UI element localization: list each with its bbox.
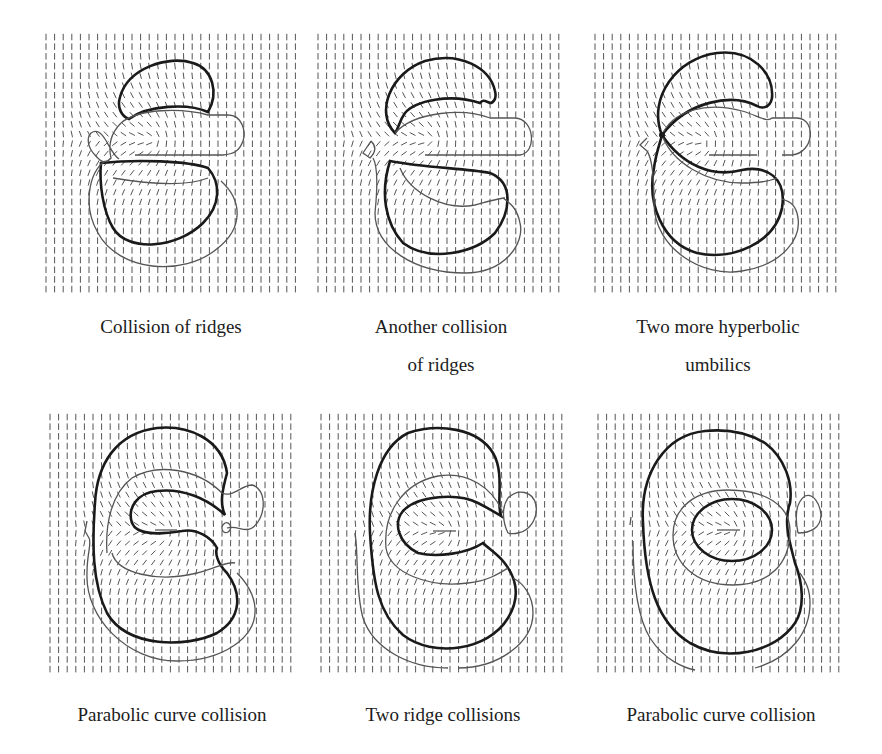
field-segment: [352, 141, 354, 147]
field-segment: [429, 92, 432, 98]
field-segment: [671, 92, 674, 98]
field-segment: [423, 482, 426, 488]
field-segment: [665, 531, 668, 537]
field-segment: [448, 540, 451, 546]
field-segment: [475, 491, 476, 497]
field-segment: [386, 73, 387, 79]
field-segment: [752, 588, 753, 594]
field-segment: [114, 208, 115, 214]
field-segment: [79, 141, 81, 147]
field-segment: [741, 102, 742, 108]
field-segment: [666, 501, 668, 507]
field-segment: [415, 589, 417, 595]
field-segment: [146, 143, 152, 145]
field-segment: [734, 569, 737, 575]
field-segment: [369, 92, 371, 98]
field-segment: [658, 491, 659, 497]
field-segment: [377, 160, 380, 166]
field-segment: [484, 569, 485, 575]
field-segment: [770, 588, 771, 594]
field-segment: [770, 598, 771, 604]
field-segment: [397, 492, 400, 498]
field-segment: [157, 141, 159, 147]
field-segment: [698, 63, 699, 69]
field-segment: [397, 569, 400, 575]
field-segment: [178, 521, 179, 527]
field-segment: [104, 122, 108, 127]
field-segment: [458, 521, 459, 527]
field-segment: [361, 82, 362, 88]
field-segment: [166, 208, 167, 214]
field-segment: [743, 550, 745, 556]
field-segment: [420, 83, 422, 89]
field-segment: [148, 92, 151, 98]
field-segment: [735, 453, 736, 459]
field-segment: [697, 73, 699, 79]
field-segment: [438, 532, 444, 534]
field-segment: [707, 541, 712, 545]
field-segment: [662, 151, 667, 156]
field-segment: [682, 531, 686, 536]
field-segment: [204, 588, 205, 594]
field-segment: [402, 102, 406, 107]
field-segment: [136, 453, 137, 459]
field-segment: [649, 530, 650, 536]
thin-curve-side-loop: [503, 492, 536, 534]
field-segment: [653, 122, 657, 127]
field-segment: [405, 550, 409, 555]
field-segment: [420, 199, 422, 205]
field-segment: [363, 511, 364, 517]
field-segment: [735, 608, 736, 614]
field-segment: [196, 462, 197, 468]
field-segment: [360, 160, 362, 166]
field-segment: [134, 551, 139, 556]
field-segment: [732, 63, 733, 69]
field-segment: [397, 560, 400, 566]
field-segment: [413, 541, 418, 545]
field-segment: [380, 521, 383, 527]
field-segment: [455, 160, 456, 166]
field-segment: [699, 541, 704, 545]
field-segment: [101, 579, 102, 585]
field-segment: [380, 501, 382, 507]
field-segment: [114, 63, 115, 69]
field-segment: [714, 112, 717, 118]
field-segment: [446, 73, 447, 79]
field-segment: [118, 462, 119, 468]
field-segment: [438, 141, 439, 147]
field-segment: [689, 73, 691, 79]
field-segment: [744, 521, 745, 527]
field-segment: [126, 472, 128, 478]
field-segment: [123, 199, 125, 205]
field-segment: [165, 170, 167, 176]
field-segment: [122, 189, 125, 195]
field-segment: [395, 199, 397, 205]
field-segment: [428, 132, 432, 137]
field-segment: [697, 92, 700, 98]
field-segment: [787, 569, 788, 575]
field-segment: [187, 482, 189, 488]
field-segment: [706, 218, 707, 224]
field-segment: [166, 199, 167, 205]
field-segment: [726, 482, 729, 488]
field-segment: [88, 112, 90, 118]
field-segment: [752, 482, 754, 488]
field-segment: [717, 472, 719, 478]
field-segment: [352, 131, 354, 137]
field-segment: [649, 540, 650, 546]
field-segment: [658, 569, 659, 575]
field-segment: [412, 208, 413, 214]
field-segment: [179, 453, 180, 459]
field-segment: [429, 63, 430, 69]
field-segment: [770, 559, 771, 565]
field-segment: [372, 521, 374, 527]
field-segment: [724, 63, 725, 69]
field-segment: [655, 82, 656, 88]
field-segment: [473, 121, 474, 127]
field-segment: [110, 462, 111, 468]
field-segment: [683, 569, 686, 575]
field-segment: [415, 608, 416, 614]
field-segment: [125, 541, 130, 545]
field-segment: [432, 462, 434, 468]
line-field-plot: [318, 413, 568, 671]
